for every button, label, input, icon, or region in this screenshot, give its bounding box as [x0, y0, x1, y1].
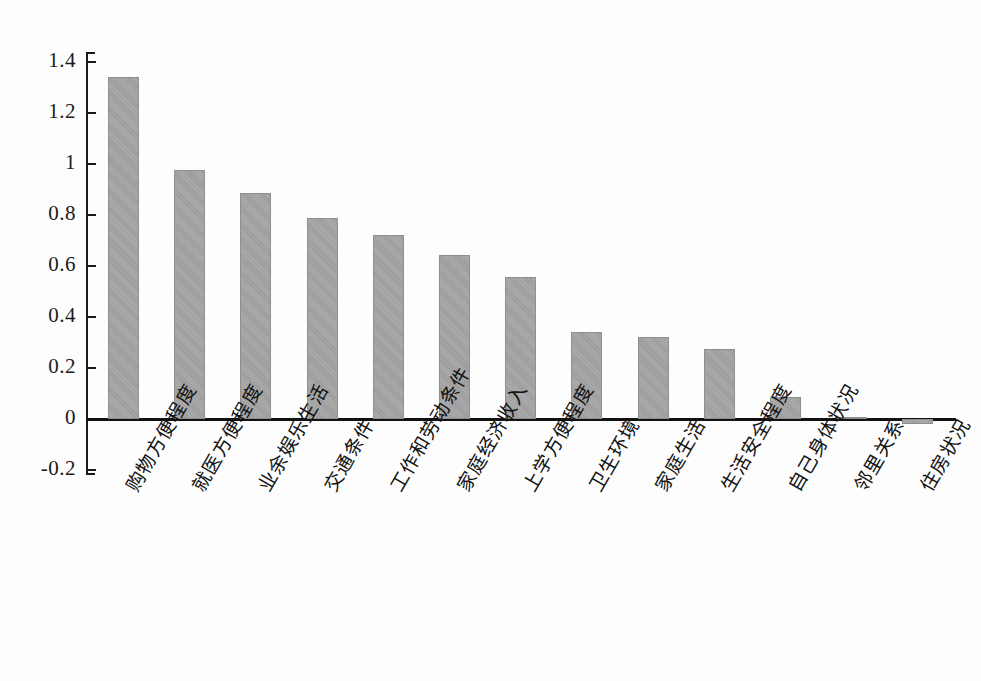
chart-page: 1.41.210.80.60.40.20-0.2 购物方便程度就医方便程度业余娱… — [0, 0, 981, 681]
y-axis-top-cap — [86, 52, 95, 54]
y-axis-tick — [86, 163, 96, 165]
x-axis-category-label: 家庭生活 — [647, 413, 710, 496]
y-axis-tick-label: 1.2 — [10, 99, 76, 124]
y-axis-tick — [86, 214, 96, 216]
y-axis-tick — [86, 61, 96, 63]
y-axis-tick — [86, 367, 96, 369]
y-axis-tick — [86, 265, 96, 267]
y-axis-tick-label: 1 — [10, 150, 76, 175]
bar-chart-plot: 1.41.210.80.60.40.20-0.2 购物方便程度就医方便程度业余娱… — [0, 0, 981, 681]
y-axis-tick-label: 0.4 — [10, 303, 76, 328]
x-axis-category-label: 卫生环境 — [581, 413, 644, 496]
x-axis-category-label: 交通条件 — [316, 413, 379, 496]
bar — [704, 349, 735, 419]
y-axis-tick-label: 0 — [10, 405, 76, 430]
y-axis-tick-label: 0.6 — [10, 252, 76, 277]
y-axis-tick — [86, 112, 96, 114]
y-axis-tick — [86, 316, 96, 318]
y-axis-line — [86, 52, 88, 475]
y-axis-tick-label: -0.2 — [10, 456, 76, 481]
bar — [108, 77, 139, 419]
bar — [373, 235, 404, 419]
y-axis-tick-label: 0.8 — [10, 201, 76, 226]
y-axis-tick-label: 1.4 — [10, 48, 76, 73]
bar — [638, 337, 669, 419]
bar — [902, 419, 933, 424]
y-axis-tick — [86, 469, 96, 471]
y-axis-tick-label: 0.2 — [10, 354, 76, 379]
x-axis-category-label: 住房状况 — [912, 413, 975, 496]
x-axis-category-label: 邻里关系 — [846, 413, 909, 496]
y-axis-bottom-cap — [86, 473, 95, 475]
